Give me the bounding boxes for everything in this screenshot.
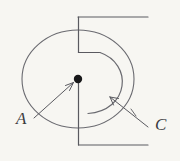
center-point [74,75,82,83]
figure-canvas: A C [0,0,180,161]
leader-line-a [34,83,74,119]
spiral-arc [88,53,122,114]
label-a: A [15,109,27,128]
label-c: C [155,115,167,134]
diagram-svg: A C [0,0,180,161]
leader-line-c [110,97,148,127]
